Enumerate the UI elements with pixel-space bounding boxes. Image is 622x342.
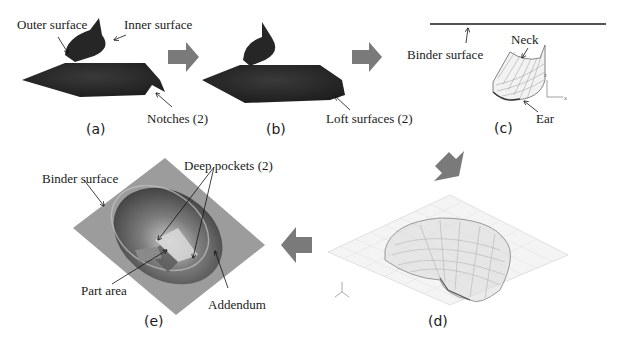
axis-x-label: x xyxy=(564,95,567,101)
label-notches: Notches (2) xyxy=(147,111,208,127)
label-part-area: Part area xyxy=(81,283,127,299)
label-outer-surface: Outer surface xyxy=(17,17,87,33)
panel-d-axis-triad xyxy=(335,282,349,297)
panel-b-part xyxy=(202,22,345,103)
axis-z-label: z xyxy=(544,72,547,78)
label-loft-surfaces: Loft surfaces (2) xyxy=(326,111,413,127)
caption-b: (b) xyxy=(266,121,286,137)
label-inner-surface: Inner surface xyxy=(124,17,192,33)
panel-c-ear-mesh xyxy=(493,45,545,100)
label-addendum: Addendum xyxy=(208,297,266,313)
caption-c: (c) xyxy=(494,120,513,136)
panel-c-axis-triad xyxy=(547,80,563,97)
label-ear: Ear xyxy=(536,111,554,127)
label-deep-pockets: Deep pockets (2) xyxy=(184,158,273,174)
flow-arrow-b-to-c xyxy=(352,42,382,72)
caption-a: (a) xyxy=(86,121,106,137)
caption-e: (e) xyxy=(144,313,164,329)
flow-arrow-a-to-b xyxy=(168,42,199,72)
flow-arrow-d-to-e xyxy=(281,227,312,263)
label-neck: Neck xyxy=(511,32,538,48)
flow-arrow-c-to-d xyxy=(434,151,464,181)
panel-d-mesh xyxy=(328,195,568,305)
caption-d: (d) xyxy=(428,313,448,329)
label-binder-surface-c: Binder surface xyxy=(407,47,483,63)
label-binder-surface-e: Binder surface xyxy=(42,171,118,187)
